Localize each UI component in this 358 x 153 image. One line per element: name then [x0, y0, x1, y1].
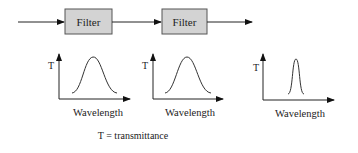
plot-1: T Wavelength [48, 54, 130, 118]
plot-2: T Wavelength [142, 54, 223, 118]
transmittance-curve-1 [72, 57, 117, 93]
pipeline: Filter Filter [18, 9, 252, 34]
y-label-3: T [253, 62, 259, 73]
x-label-3: Wavelength [275, 108, 326, 119]
transmittance-curve-2 [165, 57, 211, 93]
x-label-1: Wavelength [73, 107, 124, 118]
x-label-2: Wavelength [165, 107, 216, 118]
filter-diagram: Filter Filter T Wavelength T Wavelength … [0, 0, 358, 153]
caption: T = transmittance [98, 130, 169, 141]
y-label-1: T [48, 60, 54, 71]
y-label-2: T [142, 60, 148, 71]
filter-label-1: Filter [77, 16, 101, 28]
plot-3: T Wavelength [253, 54, 334, 119]
transmittance-curve-3 [288, 59, 304, 94]
filter-label-2: Filter [173, 16, 197, 28]
